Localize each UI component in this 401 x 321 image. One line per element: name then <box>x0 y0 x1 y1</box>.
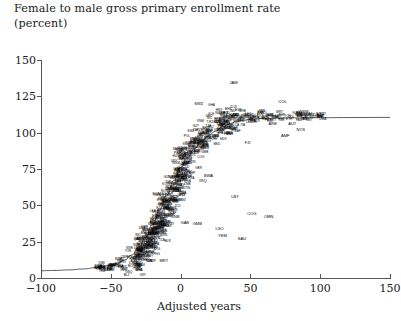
scatter-point-label: CRI <box>190 161 195 164</box>
scatter-point-label: AUT <box>288 122 296 126</box>
scatter-point-label: YEM <box>218 234 227 238</box>
scatter-point-label: MNG <box>159 230 166 233</box>
scatter-point-label: LSO <box>129 261 137 265</box>
scatter-point-label: MDV <box>220 138 227 141</box>
scatter-point-label: ARE <box>269 122 277 126</box>
scatter-point-label: COL <box>189 155 195 158</box>
scatter-point-label: ZMB <box>153 237 160 240</box>
scatter-point-label: LBN <box>181 164 187 167</box>
scatter-point-label: OMN <box>264 215 274 219</box>
scatter-point-label: MKD <box>213 144 220 147</box>
scatter-point-label: COL <box>278 100 286 104</box>
scatter-point-label: AFG <box>157 208 165 212</box>
scatter-point-label: SYC <box>316 112 324 116</box>
scatter-point-label: FRA <box>188 177 194 180</box>
scatter-point-label: TGO <box>159 203 168 207</box>
scatter-point-label: WSM <box>298 110 308 114</box>
scatter-point-label: AMF <box>281 134 290 138</box>
scatter-point-label: COL <box>139 256 145 259</box>
scatter-point-label: MLI <box>206 130 211 133</box>
scatter-point-label: KAZ <box>175 175 181 178</box>
scatter-point-label: POL <box>184 135 190 138</box>
scatter-point-label: LSO <box>216 227 224 231</box>
scatter-point-label: KOR <box>162 184 169 187</box>
scatter-point-label: LBY <box>231 195 239 199</box>
scatter-point-label: GMB <box>201 151 208 154</box>
scatter-point-label: LSO <box>245 114 251 117</box>
scatter-point-label: GMB <box>141 227 148 230</box>
scatter-point-label: PAK <box>174 151 182 155</box>
scatter-point-label: TZA <box>159 239 165 242</box>
scatter-point-label: UGA <box>137 238 144 241</box>
scatter-point-label: UGA <box>184 180 191 183</box>
scatter-point-label: AZE <box>144 238 150 241</box>
scatter-point-label: IRQ <box>199 179 206 183</box>
scatter-point-label: MLI <box>148 233 153 236</box>
scatter-point-label: BLR <box>106 268 112 271</box>
scatter-point-label: IND <box>211 136 218 140</box>
scatter-point-label: SWE <box>126 247 133 250</box>
scatter-point-label: LKA <box>150 210 156 213</box>
scatter-point-label: BIH <box>141 233 146 236</box>
scatter-point-label: THA <box>216 124 222 127</box>
scatter-point-label: PAN <box>296 119 302 122</box>
scatter-point-label: MRT <box>159 259 168 263</box>
scatter-point-label: GNB <box>171 215 180 219</box>
scatter-point-label: HTI <box>150 221 155 224</box>
scatter-point-label: FJI <box>245 141 251 145</box>
scatter-point-label: MNG <box>195 138 202 141</box>
scatter-point-label: PNG <box>224 133 231 136</box>
x-axis-label: Adjusted years <box>0 300 398 313</box>
scatter-point-label: MLI <box>188 148 195 152</box>
scatter-point-label: BOL <box>128 265 134 268</box>
scatter-point-label: NYS <box>296 128 304 132</box>
scatter-point-label: SLB <box>173 202 179 205</box>
scatter-point-label: SAU <box>238 237 246 241</box>
scatter-point-label: NER <box>170 207 177 210</box>
scatter-point-label: URY <box>139 274 145 277</box>
scatter-point-label: GHA <box>208 104 215 107</box>
scatter-point-label: TUR <box>155 222 161 225</box>
scatter-point-label: AUT <box>157 215 163 218</box>
scatter-point-label: NPL <box>146 259 154 263</box>
scatter-point-label: GAB <box>180 221 189 225</box>
scatter-point-label: PNG <box>153 254 160 257</box>
scatter-point-label: BEL <box>231 129 237 132</box>
scatter-point-label: BTN <box>182 186 190 190</box>
scatter-point-label: HRV <box>119 261 125 264</box>
scatter-point-label: QAT <box>98 266 104 269</box>
scatter-point-label: SWZ <box>194 102 203 106</box>
scatter-point-label: DJI <box>231 104 237 108</box>
scatter-point-label: LBY <box>246 121 252 124</box>
scatter-point-label: BWA <box>204 174 213 178</box>
scatter-point-label: CZE <box>171 188 177 191</box>
scatter-point-label: DOM <box>189 142 196 145</box>
scatter-point-label: CRI <box>187 152 192 155</box>
scatter-point-label: COG <box>197 157 204 160</box>
scatter-point-label: TUN <box>278 120 284 123</box>
scatter-point-label: TUN <box>172 191 178 194</box>
scatter-point-label: BFA <box>217 132 223 135</box>
scatter-point-label: KHM <box>202 147 209 150</box>
scatter-point-label: SOM <box>152 192 161 196</box>
scatter-point-label: VNM <box>197 121 204 124</box>
scatter-point-label: CZE <box>152 246 158 249</box>
scatter-point-label: TUR <box>165 195 171 198</box>
scatter-point-label: PRY <box>233 121 239 124</box>
scatter-point-label: COG <box>247 212 256 216</box>
scatter-point-label: BLZ <box>124 274 130 277</box>
scatter-point-label: JAM <box>230 81 238 85</box>
scatter-point-label: BLR <box>165 240 171 243</box>
scatter-point-label: BHR <box>279 115 286 118</box>
scatter-point-label: NER <box>176 170 185 174</box>
scatter-point-label: BGR <box>235 109 242 112</box>
scatter-point-label: NGA <box>224 127 231 130</box>
scatter-point-label: GMB <box>193 222 202 226</box>
scatter-point-label: GEO <box>206 116 213 119</box>
scatter-point-label: NZL <box>168 177 174 180</box>
scatter-point-label: MLI <box>138 263 145 267</box>
scatter-point-label: FIN <box>257 113 264 117</box>
scatter-point-label: STP <box>154 227 160 230</box>
